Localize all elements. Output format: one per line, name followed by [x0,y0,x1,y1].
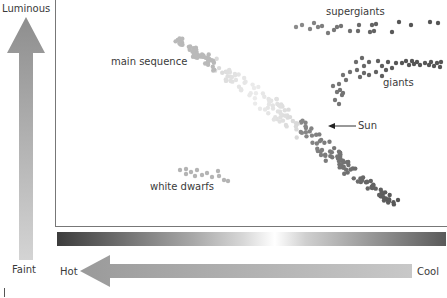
tick-mark [4,288,5,297]
luminous-label: Luminous [2,3,50,14]
main-sequence-label: main sequence [111,56,187,67]
supergiants-label: supergiants [326,6,385,17]
star-dots [173,20,443,207]
luminosity-arrow-icon [7,17,45,260]
sun-pointer-arrow-icon [328,123,356,129]
hot-label: Hot [60,266,78,277]
giants-label: giants [383,77,414,88]
temperature-color-bar [57,232,446,246]
cool-label: Cool [417,266,439,277]
white-dwarfs-label: white dwarfs [150,181,214,192]
sun-label: Sun [358,120,377,131]
faint-label: Faint [12,264,36,275]
temperature-arrow-icon [80,255,412,287]
